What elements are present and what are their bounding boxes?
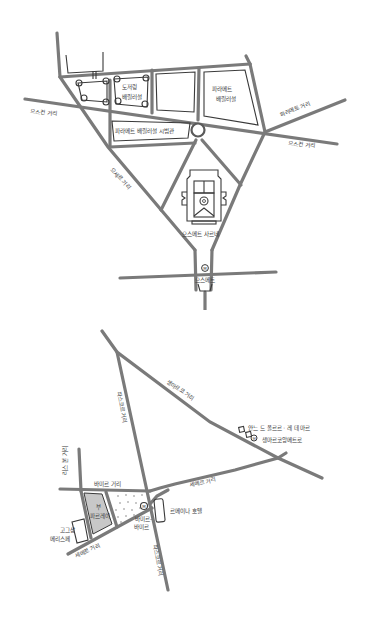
label-small-block-1: 고그상	[60, 526, 75, 533]
label-block-left-2: 배릴러설	[122, 93, 142, 101]
label-station-top: 으스메트	[195, 276, 215, 284]
block-middle	[156, 72, 195, 112]
road-left-vertical	[79, 449, 81, 491]
label-block-right-1: 파라메트	[212, 85, 232, 93]
road-connector	[150, 490, 168, 504]
building-top-left	[66, 52, 103, 73]
road-bamir	[60, 489, 150, 491]
label-station-1: 바미르-	[135, 515, 152, 523]
roads	[25, 33, 345, 310]
label-shaded-block-1: 부	[96, 504, 101, 511]
road-neck-left	[195, 250, 196, 290]
label-street-ozan-left: 으스컨 거리	[30, 107, 57, 118]
label-shop-2: 생마르코앙메트로	[262, 436, 302, 444]
label-shaded-block-2: 파르레이	[90, 512, 110, 520]
shop-square-icon	[246, 431, 252, 437]
label-street-left-vertical: 리스 본 거리	[61, 446, 69, 475]
svg-text:M: M	[252, 436, 255, 441]
top-map: 도저렁 배릴러설 파라메트 배릴러설 파라메트 배릴러설 시범관	[0, 0, 368, 310]
top-map-canvas: 도저렁 배릴러설 파라메트 배릴러설 파라메트 배릴러설 시범관	[0, 0, 368, 310]
block-dojeoreong: 도저렁 배릴러설	[114, 75, 149, 107]
road-inner-left	[161, 140, 196, 210]
road-semer-upper	[150, 453, 286, 491]
bottom-map: 부 파르레이 고그상 메리스페 르메이나 호텔 M 바미르- 바미르 M 안느 …	[0, 310, 368, 622]
label-hotel: 르메이나 호텔	[170, 507, 202, 515]
svg-text:M: M	[142, 504, 146, 509]
label-small-block-2: 메리스페	[50, 535, 70, 543]
roads	[60, 331, 322, 590]
road-diagonal-left	[60, 77, 195, 250]
block-left-columns	[76, 78, 109, 105]
road-top-horizontal	[60, 64, 250, 77]
hotel-building	[154, 499, 165, 523]
church-icon	[182, 170, 226, 224]
label-block-right-2: 배릴러설	[216, 95, 236, 103]
road-inner-vertical-3	[198, 68, 199, 120]
label-street-bamir: 바미르 거리	[94, 480, 121, 488]
svg-text:M: M	[203, 266, 207, 271]
label-block-long: 파라메트 배릴러설 시범관	[115, 127, 174, 135]
label-station-2: 바미르	[134, 523, 149, 531]
label-shop-1: 안느 드 폴르르 · 레 데 마르	[248, 424, 310, 432]
road-semer-lower	[68, 508, 152, 554]
block-long: 파라메트 배릴러설 시범관	[112, 121, 190, 141]
road-saint-marco	[102, 331, 322, 478]
road-inner-right	[202, 140, 241, 185]
label-church: 으스메트 사르네	[182, 230, 219, 238]
block-paramete: 파라메트 배릴러설	[204, 70, 258, 125]
road-left-vertical	[57, 33, 60, 77]
label-block-left-1: 도저렁	[122, 83, 137, 91]
roundabout-icon	[192, 124, 205, 137]
shop-square-icon	[239, 426, 245, 432]
road-block-bottom	[110, 143, 195, 147]
bottom-map-canvas: 부 파르레이 고그상 메리스페 르메이나 호텔 M 바미르- 바미르 M 안느 …	[0, 310, 368, 622]
